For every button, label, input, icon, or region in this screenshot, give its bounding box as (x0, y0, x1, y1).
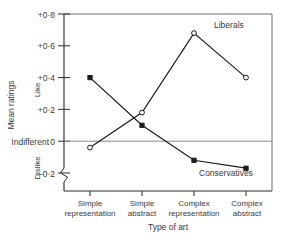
x-category-label-0-line2: representation (64, 209, 115, 218)
series-markers-conservatives (88, 76, 248, 171)
x-category-label-3-line2: abstract (233, 209, 262, 218)
y-axis-title: Mean ratings (6, 80, 16, 129)
x-category-label-1-line2: abstract (128, 209, 157, 218)
x-axis-title: Type of art (148, 222, 189, 232)
x-category-label-2-line1: Complex (178, 199, 210, 208)
x-category-label-2-line2: representation (168, 209, 219, 218)
series-line-liberals (90, 33, 246, 148)
series-markers-liberals (88, 31, 249, 150)
data-point-liberals-0 (88, 145, 93, 150)
y-tick-label-0.8: +0·8 (38, 10, 56, 20)
chart-canvas: +0·8 +0·6 +0·4 +0·2 0 –0·2 Indifferent L… (0, 0, 289, 235)
series-annotation-conservatives: Conservatives (199, 168, 253, 178)
y-tick-label-zero: 0 (50, 137, 55, 147)
data-point-conservatives-1 (140, 123, 144, 127)
x-category-label-1-line1: Simple (130, 199, 155, 208)
chart-figure: +0·8 +0·6 +0·4 +0·2 0 –0·2 Indifferent L… (0, 0, 289, 235)
x-category-label-3-line1: Complex (231, 199, 263, 208)
series-annotation-liberals: Liberals (214, 20, 244, 30)
data-point-liberals-1 (140, 110, 145, 115)
y-like-label: Like (33, 82, 42, 97)
data-point-liberals-2 (192, 31, 197, 36)
y-zero-descriptor-label: Indifferent (11, 137, 49, 147)
x-category-label-0-line1: Simple (78, 199, 103, 208)
data-point-conservatives-2 (192, 158, 196, 162)
y-dislike-label: Dislike (33, 156, 42, 180)
y-tick-label-0.4: +0·4 (38, 73, 56, 83)
y-axis-break-icon (61, 168, 68, 182)
plot-frame (64, 14, 272, 191)
y-tick-label-0.2: +0·2 (38, 105, 56, 115)
y-tick-label-0.6: +0·6 (38, 41, 56, 51)
data-point-conservatives-0 (88, 76, 92, 80)
series-line-conservatives (90, 78, 246, 169)
data-point-liberals-3 (244, 75, 249, 80)
